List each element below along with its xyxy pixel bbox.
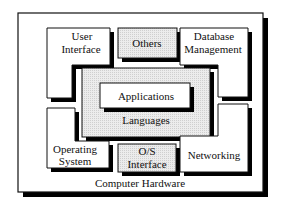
operating-system-label-2: System: [59, 155, 92, 167]
user-interface-label-2: Interface: [61, 43, 100, 55]
networking-label: Networking: [188, 149, 241, 161]
operating-system-label-1: Operating: [53, 143, 97, 155]
database-management-label-1: Database: [194, 30, 234, 42]
database-management-label-2: Management: [184, 43, 241, 55]
applications-block: Applications: [100, 83, 194, 112]
user-interface-label-1: User: [72, 30, 93, 42]
computer-hardware-label: Computer Hardware: [95, 177, 185, 189]
os-interface-label-2: Interface: [127, 158, 166, 170]
os-interface-label-1: O/S: [138, 145, 155, 157]
os-interface-block: O/S Interface: [118, 144, 180, 176]
architecture-diagram: Computer Hardware User Interface Others …: [0, 0, 288, 213]
others-block: Others: [118, 28, 181, 62]
languages-label: Languages: [122, 114, 170, 126]
others-label: Others: [132, 37, 161, 49]
applications-label: Applications: [118, 90, 174, 102]
